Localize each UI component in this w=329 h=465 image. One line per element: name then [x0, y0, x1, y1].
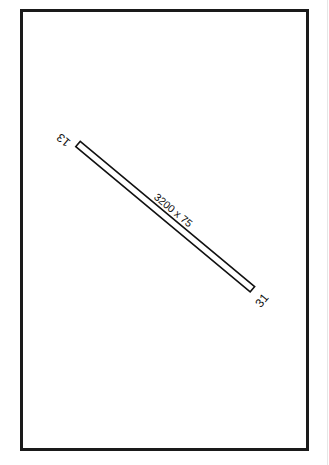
- runway[interactable]: [76, 141, 255, 292]
- runway-outline: [76, 141, 255, 292]
- runway-diagram: 3200 x 75 13 31: [0, 0, 329, 465]
- runway-end-13-label: 13: [54, 130, 73, 150]
- runway-end-31-label: 31: [252, 291, 272, 310]
